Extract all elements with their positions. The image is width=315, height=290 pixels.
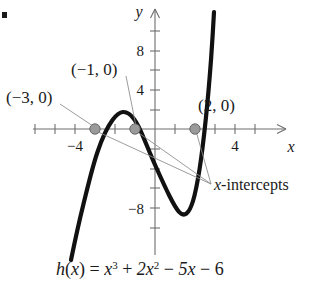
y-axis-label: y [133, 3, 143, 21]
cubic-function-graph: −4 4 x 8 4 −8 y [0, 0, 315, 290]
eq-equals: = [90, 259, 100, 279]
eq-term3: 5x [178, 259, 195, 279]
point-label-neg1: (−1, 0) [71, 60, 117, 79]
eq-term1-base: x [103, 259, 112, 279]
x-intercepts-callout-rest: -intercepts [221, 176, 289, 194]
eq-op2: − [164, 259, 174, 279]
point-label-neg3: (−3, 0) [6, 88, 52, 107]
y-tick-label-4: 4 [137, 82, 145, 98]
x-intercept-dot-neg1 [130, 124, 140, 134]
x-intercepts-callout: x-intercepts [213, 176, 289, 194]
graph-figure: −4 4 x 8 4 −8 y [0, 0, 315, 290]
point-label-2: (2, 0) [198, 96, 235, 115]
eq-fn-name: h [56, 259, 65, 279]
eq-arg: x [70, 259, 79, 279]
x-intercept-dot-neg3 [90, 124, 100, 134]
eq-op3: − [200, 259, 210, 279]
x-tick-label-neg4: −4 [67, 138, 83, 154]
leader-line-neg3 [60, 104, 93, 126]
eq-term2-base: 2x [137, 259, 154, 279]
x-intercepts-callout-var: x [213, 176, 221, 193]
leader-line-callout-neg3 [96, 131, 211, 184]
y-tick-label-8: 8 [137, 43, 145, 59]
x-intercept-dot-2 [190, 124, 200, 134]
corner-mark [2, 12, 7, 18]
eq-term4: 6 [215, 259, 224, 279]
y-tick-label-neg8: −8 [128, 201, 144, 217]
eq-op1: + [122, 259, 132, 279]
x-tick-label-4: 4 [231, 138, 239, 154]
x-axis-label: x [286, 138, 294, 155]
function-equation: h(x) = x3 + 2x2 − 5x − 6 [56, 259, 224, 280]
